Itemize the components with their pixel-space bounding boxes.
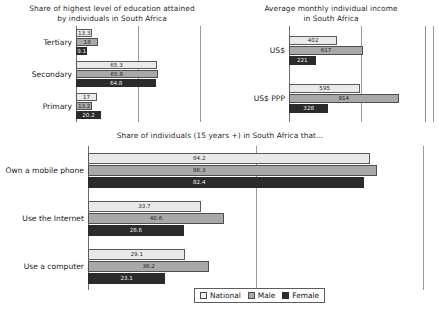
bar-value-label: 23.1 <box>120 275 132 281</box>
category-label: Tertiary <box>2 38 72 47</box>
bar-group: Use a computer29.136.223.1 <box>88 242 423 290</box>
bar-group: US$ PPP595914328 <box>289 74 433 122</box>
education-chart-title-line1: Share of highest level of education atta… <box>6 4 218 14</box>
bar-usage-male: 40.6 <box>88 213 224 224</box>
bar-group: Primary1713.220.2 <box>76 90 200 122</box>
bar-value-label: 221 <box>297 57 308 63</box>
legend-item-female: Female <box>282 292 319 300</box>
bar-group: Secondary65.365.864.8 <box>76 58 200 90</box>
chart-legend: NationalMaleFemale <box>194 288 325 303</box>
education-chart-panel: Share of highest level of education atta… <box>0 0 222 127</box>
bar-value-label: 13.2 <box>78 103 90 109</box>
bar-usage-male: 86.3 <box>88 165 377 176</box>
bar-value-label: 36.2 <box>142 263 154 269</box>
bar-education-national: 17 <box>76 93 97 101</box>
category-label: Own a mobile phone <box>2 166 84 175</box>
income-chart-title-line2: in South Africa <box>228 14 434 24</box>
bar-value-label: 28.6 <box>130 227 142 233</box>
bar-income-male: 914 <box>289 94 399 103</box>
income-chart-panel: Average monthly individual income in Sou… <box>224 0 439 127</box>
bar-education-male: 18 <box>76 38 98 46</box>
bar-value-label: 402 <box>308 37 319 43</box>
income-chart-title-line1: Average monthly individual income <box>228 4 434 14</box>
bar-value-label: 18 <box>84 39 91 45</box>
bar-usage-national: 84.2 <box>88 153 370 164</box>
bar-education-male: 65.8 <box>76 70 158 78</box>
bar-value-label: 595 <box>319 85 330 91</box>
top-row-right-divider <box>425 26 426 122</box>
gridline <box>423 146 424 290</box>
bar-value-label: 914 <box>338 95 349 101</box>
bar-value-label: 328 <box>303 105 314 111</box>
gridline <box>433 26 434 122</box>
bar-education-male: 13.2 <box>76 102 92 110</box>
bar-group: Tertiary13.3189.1 <box>76 26 200 58</box>
bar-value-label: 65.8 <box>111 71 123 77</box>
bar-value-label: 65.3 <box>110 62 122 68</box>
bar-usage-female: 82.4 <box>88 177 364 188</box>
legend-label: National <box>210 292 241 300</box>
bar-value-label: 13.3 <box>78 30 90 36</box>
legend-swatch-female-icon <box>282 292 289 299</box>
bar-value-label: 84.2 <box>193 155 205 161</box>
bar-income-male: 617 <box>289 46 363 55</box>
bar-income-female: 221 <box>289 56 316 65</box>
category-label: US$ PPP <box>225 94 285 103</box>
bar-income-national: 402 <box>289 36 337 45</box>
education-chart-title-line2: by individuals in South Africa <box>6 14 218 24</box>
bar-value-label: 64.8 <box>110 80 122 86</box>
category-label: Use the Internet <box>2 214 84 223</box>
bar-value-label: 17 <box>83 94 90 100</box>
bar-education-female: 9.1 <box>76 47 87 55</box>
legend-swatch-national-icon <box>200 292 207 299</box>
bar-group: Use the Internet33.740.628.6 <box>88 194 423 242</box>
bar-education-national: 65.3 <box>76 61 157 69</box>
category-label: Secondary <box>2 70 72 79</box>
bar-group: Own a mobile phone84.286.382.4 <box>88 146 423 194</box>
bar-income-national: 595 <box>289 84 360 93</box>
bar-usage-national: 33.7 <box>88 201 201 212</box>
bar-education-female: 64.8 <box>76 79 156 87</box>
bar-education-female: 20.2 <box>76 111 101 119</box>
legend-item-national: National <box>200 292 241 300</box>
bar-value-label: 9.1 <box>77 48 86 54</box>
bar-education-national: 13.3 <box>76 29 92 37</box>
bar-value-label: 86.3 <box>193 167 205 173</box>
education-chart-title: Share of highest level of education atta… <box>6 4 218 23</box>
usage-chart-title-line1: Share of individuals (15 years +) in Sou… <box>20 131 420 141</box>
usage-plot-area: Own a mobile phone84.286.382.4Use the In… <box>88 146 423 290</box>
category-label: Use a computer <box>2 262 84 271</box>
bar-value-label: 33.7 <box>138 203 150 209</box>
usage-chart-title: Share of individuals (15 years +) in Sou… <box>20 131 420 141</box>
bar-usage-male: 36.2 <box>88 261 209 272</box>
legend-label: Female <box>292 292 319 300</box>
gridline <box>200 26 201 122</box>
legend-label: Male <box>258 292 276 300</box>
income-chart-title: Average monthly individual income in Sou… <box>228 4 434 23</box>
legend-swatch-male-icon <box>248 292 255 299</box>
legend-item-male: Male <box>248 292 276 300</box>
bar-value-label: 29.1 <box>131 251 143 257</box>
income-plot-area: US$402617221US$ PPP595914328 <box>289 26 433 122</box>
bar-value-label: 40.6 <box>150 215 162 221</box>
usage-chart-panel: Share of individuals (15 years +) in Sou… <box>0 128 439 314</box>
bar-usage-national: 29.1 <box>88 249 185 260</box>
bar-value-label: 20.2 <box>82 112 94 118</box>
category-label: US$ <box>225 46 285 55</box>
bar-usage-female: 23.1 <box>88 273 165 284</box>
bar-group: US$402617221 <box>289 26 433 74</box>
bar-income-female: 328 <box>289 104 328 113</box>
bar-usage-female: 28.6 <box>88 225 184 236</box>
bar-value-label: 82.4 <box>193 179 205 185</box>
bar-value-label: 617 <box>321 47 332 53</box>
education-plot-area: Tertiary13.3189.1Secondary65.365.864.8Pr… <box>76 26 200 122</box>
category-label: Primary <box>2 102 72 111</box>
